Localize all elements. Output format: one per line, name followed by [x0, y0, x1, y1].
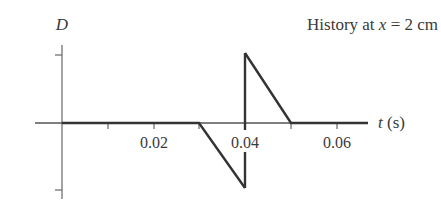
displacement-history-chart: History at x = 2 cm D 0.02 0.04 0.06 t (… [0, 0, 441, 204]
x-tick-label-0.02: 0.02 [140, 134, 168, 151]
x-tick-label-0.06: 0.06 [323, 134, 351, 151]
waveform-negative-ramp [62, 123, 245, 188]
y-axis-label: D [55, 15, 69, 34]
chart-title: History at x = 2 cm [307, 15, 438, 34]
x-axis-label: t (s) [378, 113, 405, 132]
waveform-positive-ramp [245, 53, 368, 123]
x-tick-label-0.04: 0.04 [231, 134, 259, 151]
